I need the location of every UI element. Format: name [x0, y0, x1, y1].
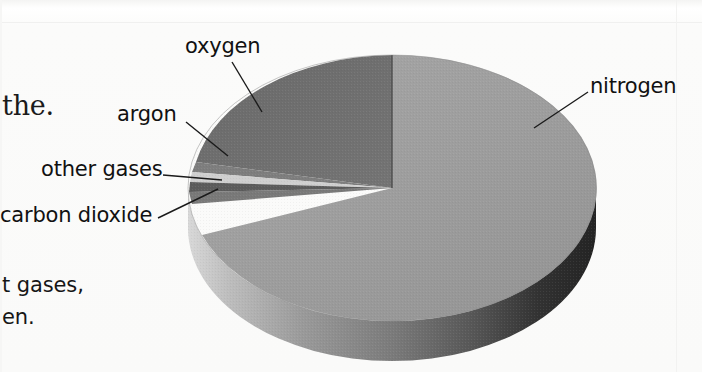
pie-top-texture — [188, 55, 596, 321]
pie-chart-svg — [0, 0, 702, 372]
pie-label-carbon-dioxide: carbon dioxide — [0, 205, 152, 226]
pie-label-argon: argon — [117, 104, 177, 125]
pie-label-oxygen: oxygen — [185, 36, 260, 57]
body-text-fragment-gases: t gases, — [2, 273, 84, 297]
body-text-fragment-en: en. — [2, 305, 35, 329]
atmosphere-pie-chart — [0, 0, 702, 372]
pie-label-nitrogen: nitrogen — [590, 76, 676, 97]
pie-label-other-gases: other gases — [41, 159, 162, 180]
body-text-fragment-the: the. — [2, 90, 54, 121]
figure-page: oxygen argon other gases carbon dioxide … — [0, 0, 702, 372]
